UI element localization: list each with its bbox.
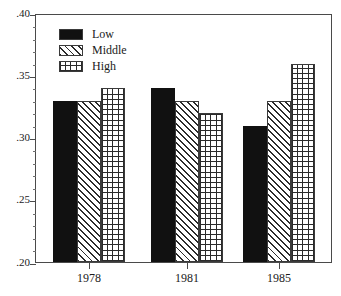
y-axis-label-4: .20 — [0, 257, 30, 268]
x-axis-label-1: 1981 — [152, 272, 222, 284]
x-tick-1985 — [279, 263, 280, 269]
y-axis-label-1: .35 — [0, 70, 30, 81]
y-tick-minor-34 — [33, 89, 36, 90]
legend-label-middle: Middle — [92, 44, 127, 56]
bar-1985-high — [291, 64, 315, 262]
legend-label-low: Low — [92, 28, 114, 40]
y-axis-label-0: .40 — [0, 8, 30, 19]
chart-legend: Low Middle High — [59, 27, 127, 75]
y-tick-minor-21 — [33, 251, 36, 252]
y-tick-minor-27 — [33, 176, 36, 177]
legend-label-high: High — [92, 60, 116, 72]
y-tick-major-30 — [30, 139, 36, 140]
y-tick-minor-33 — [33, 102, 36, 103]
y-axis-label-2: .30 — [0, 132, 30, 143]
y-tick-major-35 — [30, 77, 36, 78]
y-tick-minor-38 — [33, 40, 36, 41]
y-tick-minor-29 — [33, 151, 36, 152]
y-tick-major-25 — [30, 201, 36, 202]
bar-1981-high — [199, 113, 223, 262]
legend-item-low: Low — [59, 27, 127, 41]
y-tick-minor-32 — [33, 114, 36, 115]
x-axis-label-0: 1978 — [54, 272, 124, 284]
bar-1981-low — [151, 88, 175, 262]
bar-1978-high — [101, 88, 125, 262]
y-tick-minor-26 — [33, 189, 36, 190]
y-tick-minor-36 — [33, 65, 36, 66]
y-tick-minor-39 — [33, 27, 36, 28]
legend-swatch-high-icon — [59, 61, 83, 72]
legend-swatch-low-icon — [59, 29, 83, 40]
bar-1978-low — [53, 101, 77, 262]
bar-1981-middle — [175, 101, 199, 262]
legend-item-high: High — [59, 59, 127, 73]
legend-item-middle: Middle — [59, 43, 127, 57]
y-tick-minor-37 — [33, 52, 36, 53]
y-axis-label-3: .25 — [0, 194, 30, 205]
y-tick-minor-28 — [33, 164, 36, 165]
y-tick-minor-24 — [33, 214, 36, 215]
y-tick-major-40 — [30, 15, 36, 16]
bar-1978-middle — [77, 101, 101, 262]
y-tick-minor-23 — [33, 226, 36, 227]
bar-1985-middle — [267, 101, 291, 262]
x-tick-1981 — [187, 263, 188, 269]
legend-swatch-middle-icon — [59, 45, 83, 56]
bar-1985-low — [243, 126, 267, 262]
plot-area: Low Middle High — [35, 14, 332, 263]
x-tick-1978 — [89, 263, 90, 269]
y-tick-major-20 — [30, 264, 36, 265]
bar-chart-figure: .40 .35 .30 .25 .20 1978 1981 1985 — [0, 0, 341, 296]
x-axis-label-2: 1985 — [244, 272, 314, 284]
y-tick-minor-22 — [33, 239, 36, 240]
y-tick-minor-31 — [33, 127, 36, 128]
